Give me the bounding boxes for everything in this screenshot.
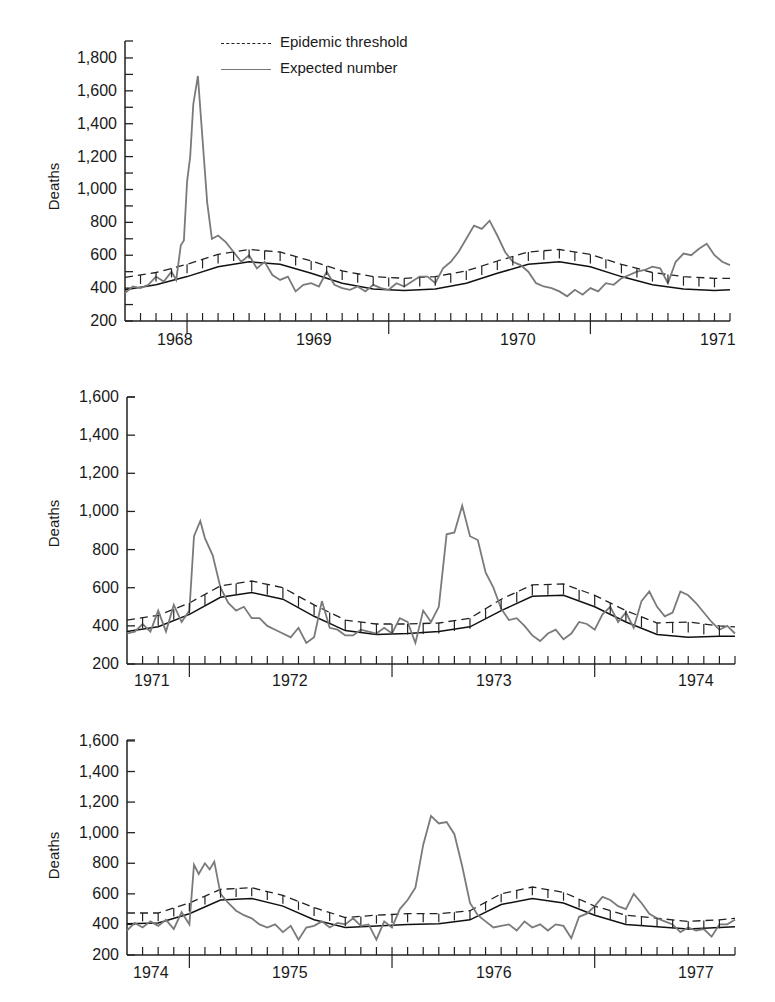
- y-tick-label: 1,400: [49, 763, 119, 781]
- chart-svg: [0, 0, 775, 1002]
- y-tick-label: 200: [49, 946, 119, 964]
- y-tick-label: 1,600: [49, 732, 119, 750]
- x-year-label: 1974: [133, 964, 169, 982]
- x-year-label: 1976: [476, 964, 512, 982]
- series-observed: [127, 816, 735, 940]
- x-year-label: 1975: [272, 964, 308, 982]
- series-epidemic-threshold: [127, 887, 735, 921]
- y-tick-label: 1,200: [49, 793, 119, 811]
- y-tick-label: 400: [49, 915, 119, 933]
- y-tick-label: 600: [49, 885, 119, 903]
- x-year-label: 1977: [678, 964, 714, 982]
- y-axis-title: Deaths: [45, 832, 62, 880]
